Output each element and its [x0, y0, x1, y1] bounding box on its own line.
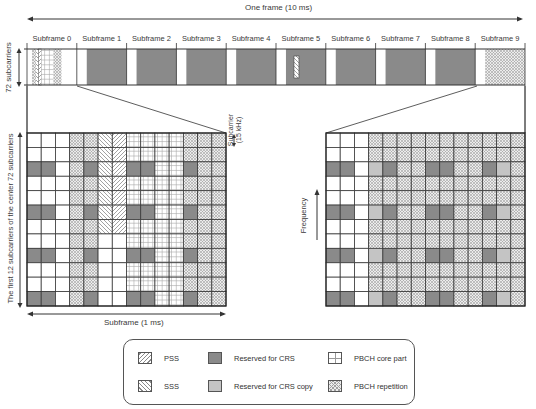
pbch-repetition-cell	[411, 147, 425, 161]
empty-cell	[98, 263, 112, 277]
crs-swatch-icon	[208, 352, 222, 364]
crs-cell	[482, 248, 496, 262]
pbch-core-cell	[155, 220, 169, 234]
legend-item-crs-copy: Reserved for CRS copy	[208, 380, 313, 392]
sss-cell	[98, 133, 112, 147]
crs-cell	[127, 162, 141, 176]
pbch-repetition-cell	[411, 292, 425, 306]
crs-cell	[482, 292, 496, 306]
pbch-repetition-cell	[397, 205, 411, 219]
pbch-repetition-cell	[440, 191, 454, 205]
pbch-repetition-cell	[482, 191, 496, 205]
pss-cell	[112, 205, 126, 219]
empty-cell	[41, 234, 55, 248]
right-resource-grid	[326, 133, 525, 306]
empty-cell	[27, 263, 41, 277]
empty-cell	[112, 292, 126, 306]
crs-cell	[426, 248, 440, 262]
pbch-core-cell	[155, 133, 169, 147]
empty-cell	[98, 277, 112, 291]
crs-cell	[426, 162, 440, 176]
crs-cell	[27, 292, 41, 306]
crs-cell	[326, 248, 340, 262]
empty-cell	[326, 147, 340, 161]
empty-cell	[340, 263, 354, 277]
crs-cell	[326, 292, 340, 306]
pbch-repetition-cell	[198, 133, 212, 147]
crs-cell	[383, 162, 397, 176]
crs-cell	[340, 162, 354, 176]
pbch-repetition-cell	[70, 263, 84, 277]
legend-label: Reserved for CRS copy	[234, 382, 313, 391]
crs-cell	[383, 205, 397, 219]
legend-label: Reserved for CRS	[234, 354, 295, 363]
pbch-repetition-cell	[397, 191, 411, 205]
empty-cell	[326, 277, 340, 291]
pbch-repetition-cell	[468, 277, 482, 291]
pbch-repetition-cell	[511, 176, 525, 190]
empty-cell	[41, 176, 55, 190]
empty-cell	[340, 176, 354, 190]
pbch-repetition-cell	[482, 133, 496, 147]
empty-cell	[354, 133, 368, 147]
pbch-repetition-cell	[84, 133, 98, 147]
crs-cell	[141, 162, 155, 176]
pbch-repetition-cell	[212, 277, 226, 291]
pbch-core-cell	[169, 133, 183, 147]
pbch-repetition-cell	[198, 292, 212, 306]
frequency-arrow	[315, 189, 320, 240]
crs-cell	[84, 162, 98, 176]
sss-swatch-icon	[138, 380, 152, 392]
pbch-repetition-cell	[482, 263, 496, 277]
crs-cell	[340, 292, 354, 306]
pbch-repetition-cell	[454, 205, 468, 219]
crs-copy-cell	[497, 248, 511, 262]
pbch-repetition-cell	[212, 191, 226, 205]
sss-cell	[98, 162, 112, 176]
pbch-repetition-cell	[397, 147, 411, 161]
empty-cell	[55, 162, 69, 176]
pbch-repetition-cell	[511, 162, 525, 176]
pbch-core-cell	[127, 176, 141, 190]
pbch-repetition-cell	[397, 277, 411, 291]
crs-copy-cell	[497, 162, 511, 176]
empty-cell	[354, 292, 368, 306]
crs-copy-cell	[369, 162, 383, 176]
pbch-repetition-cell	[84, 191, 98, 205]
empty-cell	[354, 234, 368, 248]
pbch-repetition-cell	[468, 205, 482, 219]
sss-cell	[98, 191, 112, 205]
pbch-repetition-cell	[183, 277, 197, 291]
crs-cell	[440, 292, 454, 306]
pss-cell	[112, 133, 126, 147]
pbch-repetition-cell	[397, 162, 411, 176]
pbch-repetition-cell	[426, 147, 440, 161]
pbch-repetition-cell	[468, 263, 482, 277]
pss-cell	[112, 162, 126, 176]
pbch-core-cell	[169, 176, 183, 190]
pbch-repetition-cell	[511, 292, 525, 306]
pbch-core-cell	[155, 248, 169, 262]
pbch-repetition-cell	[497, 191, 511, 205]
pbch-core-cell	[169, 191, 183, 205]
pbch-core-cell	[141, 263, 155, 277]
pbch-repetition-cell	[468, 162, 482, 176]
pbch-repetition-cell	[183, 147, 197, 161]
pbch-repetition-cell	[84, 176, 98, 190]
pbch-repetition-cell	[454, 162, 468, 176]
pbch-repetition-cell	[426, 133, 440, 147]
empty-cell	[27, 176, 41, 190]
sss-cell	[98, 176, 112, 190]
pbch-repetition-cell	[497, 277, 511, 291]
empty-cell	[340, 133, 354, 147]
pbch-core-cell	[127, 191, 141, 205]
subcarrier-label-line1: Subcarrier	[227, 110, 235, 150]
pbch-repetition-cell	[212, 248, 226, 262]
empty-cell	[354, 205, 368, 219]
pbch-core-swatch-icon	[328, 352, 342, 364]
pbch-repetition-cell	[183, 234, 197, 248]
pbch-repetition-cell	[511, 220, 525, 234]
pbch-core-cell	[155, 234, 169, 248]
legend-item-pbch-repetition: PBCH repetition	[328, 380, 408, 392]
pbch-repetition-cell	[468, 176, 482, 190]
